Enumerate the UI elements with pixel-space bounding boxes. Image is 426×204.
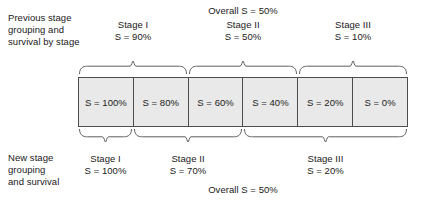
survival-cell-2: S = 60% bbox=[189, 78, 244, 126]
overall-survival-top: Overall S = 50% bbox=[208, 5, 278, 17]
overall-survival-bottom: Overall S = 50% bbox=[208, 184, 278, 196]
top-brace-1 bbox=[190, 61, 297, 74]
survival-cell-1: S = 80% bbox=[134, 78, 189, 126]
survival-cell-4: S = 20% bbox=[298, 78, 353, 126]
top-group-stage-0: Stage I bbox=[118, 19, 148, 30]
top-brace-2 bbox=[300, 61, 407, 74]
bottom-group-stage-0: Stage I bbox=[90, 153, 120, 164]
previous-grouping-label: Previous stage grouping and survival by … bbox=[8, 12, 80, 49]
top-group-survival-1: S = 50% bbox=[225, 31, 262, 42]
top-group-label-2: Stage III S = 10% bbox=[335, 19, 372, 43]
top-brace-group bbox=[78, 60, 408, 75]
bottom-braces-svg bbox=[78, 128, 408, 143]
top-brace-0 bbox=[80, 61, 187, 74]
bottom-brace-group bbox=[78, 128, 408, 143]
survival-cell-5: S = 0% bbox=[353, 78, 407, 126]
top-braces-svg bbox=[78, 60, 408, 75]
top-group-stage-1: Stage II bbox=[226, 19, 259, 30]
bottom-group-survival-1: S = 70% bbox=[170, 165, 207, 176]
bottom-brace-1 bbox=[135, 129, 242, 142]
survival-cell-0: S = 100% bbox=[79, 78, 134, 126]
bottom-group-stage-1: Stage II bbox=[171, 153, 204, 164]
survival-cell-3: S = 40% bbox=[243, 78, 298, 126]
bottom-group-survival-2: S = 20% bbox=[307, 165, 344, 176]
top-group-label-0: Stage I S = 90% bbox=[115, 19, 152, 43]
bottom-group-survival-0: S = 100% bbox=[85, 165, 127, 176]
top-group-survival-2: S = 10% bbox=[335, 31, 372, 42]
top-group-label-1: Stage II S = 50% bbox=[225, 19, 262, 43]
bottom-group-stage-2: Stage III bbox=[308, 153, 344, 164]
stage-grouping-diagram: Overall S = 50% Previous stage grouping … bbox=[0, 0, 426, 204]
survival-cell-bar: S = 100% S = 80% S = 60% S = 40% S = 20%… bbox=[78, 77, 408, 127]
bottom-group-label-0: Stage I S = 100% bbox=[85, 153, 127, 177]
bottom-group-label-1: Stage II S = 70% bbox=[170, 153, 207, 177]
top-group-survival-0: S = 90% bbox=[115, 31, 152, 42]
bottom-group-label-2: Stage III S = 20% bbox=[307, 153, 344, 177]
top-group-stage-2: Stage III bbox=[335, 19, 371, 30]
bottom-brace-0 bbox=[80, 129, 132, 142]
new-grouping-label: New stage grouping and survival bbox=[8, 152, 59, 189]
bottom-brace-2 bbox=[245, 129, 407, 142]
